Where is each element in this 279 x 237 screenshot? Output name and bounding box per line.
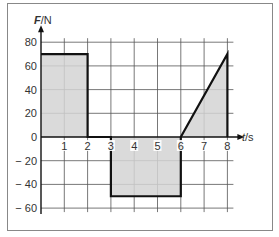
x-tick-label: 3 bbox=[108, 140, 114, 152]
x-tick-label: 8 bbox=[224, 140, 230, 152]
origin-label: 0 bbox=[31, 131, 37, 143]
y-tick-label: 40 bbox=[25, 84, 37, 96]
x-tick-label: 4 bbox=[131, 140, 137, 152]
x-tick-label: 7 bbox=[201, 140, 207, 152]
y-tick-label: − 40 bbox=[15, 178, 37, 190]
y-tick-label: 80 bbox=[25, 36, 37, 48]
x-tick-label: 5 bbox=[154, 140, 160, 152]
force-time-chart: 12345678806040200− 20− 40− 60 F/N t/s bbox=[0, 0, 279, 237]
x-axis-title: t/s bbox=[242, 131, 254, 143]
y-tick-label: 60 bbox=[25, 60, 37, 72]
y-axis-arrow-icon bbox=[38, 25, 44, 32]
x-tick-label: 2 bbox=[85, 140, 91, 152]
negative-impulse-fill bbox=[111, 137, 181, 196]
y-tick-label: 20 bbox=[25, 107, 37, 119]
x-tick-label: 6 bbox=[178, 140, 184, 152]
x-tick-label: 1 bbox=[61, 140, 67, 152]
positive-impulse-1-fill bbox=[41, 54, 88, 137]
y-axis-title: F/N bbox=[34, 14, 52, 26]
y-tick-label: − 20 bbox=[15, 155, 37, 167]
y-tick-label: − 60 bbox=[15, 202, 37, 214]
